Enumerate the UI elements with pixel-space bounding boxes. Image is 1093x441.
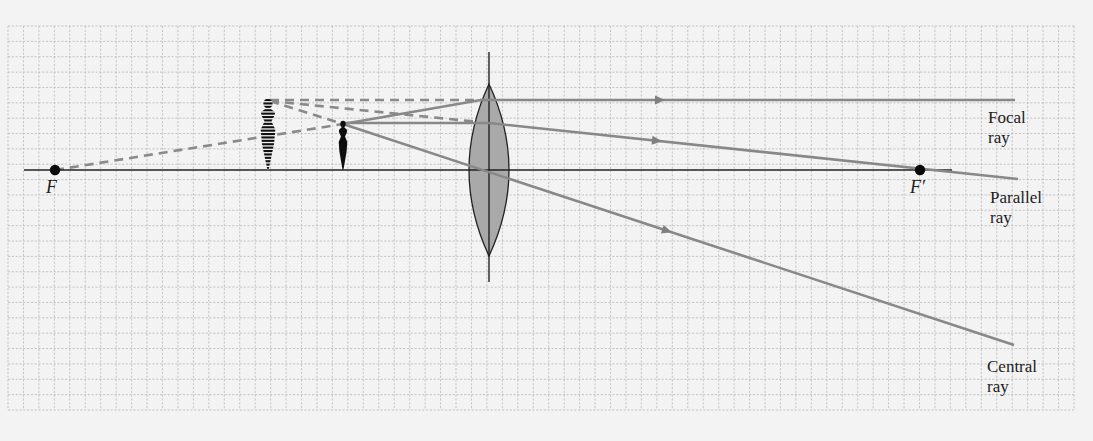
focal-point-dot-icon (915, 165, 925, 175)
focal-point-label-f-prime: F′ (910, 177, 925, 197)
arrowhead-icon (661, 225, 673, 237)
focal-ray-label-line2: ray (988, 128, 1026, 148)
graph-paper-grid (8, 26, 1074, 410)
ray-diagram: F F′ Focal ray Parallel ray Central ray (0, 0, 1093, 441)
parallel-ray-label-line1: Parallel (990, 188, 1042, 208)
focal-ray-label: Focal ray (988, 108, 1026, 148)
central-ray-label-line1: Central (987, 357, 1037, 377)
parallel-ray-label: Parallel ray (990, 188, 1042, 228)
ray-diagram-canvas (0, 0, 1093, 441)
ray-segment (343, 124, 1014, 345)
focal-point-label-f: F (46, 177, 57, 197)
focal-point-dot-icon (50, 165, 60, 175)
focal-ray-label-line1: Focal (988, 108, 1026, 128)
parallel-ray-label-line2: ray (990, 208, 1042, 228)
light-rays (343, 96, 1018, 346)
central-ray-label-line2: ray (987, 377, 1037, 397)
central-ray-label: Central ray (987, 357, 1037, 397)
focal-ray-dashed-extension (55, 124, 343, 170)
